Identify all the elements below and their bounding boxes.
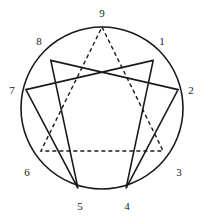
enneagram-diagram: 123456789 [0, 0, 204, 220]
point-label-6: 6 [24, 167, 30, 178]
point-label-1: 1 [159, 36, 165, 47]
point-label-8: 8 [36, 36, 42, 47]
inner-triangle-path [41, 27, 163, 151]
point-label-7: 7 [9, 85, 15, 96]
point-label-9: 9 [99, 8, 105, 19]
point-label-5: 5 [77, 201, 83, 212]
outer-circle [21, 27, 183, 189]
point-label-4: 4 [124, 201, 130, 212]
enneagram-canvas [0, 0, 204, 220]
point-label-2: 2 [188, 85, 194, 96]
point-label-3: 3 [176, 167, 182, 178]
